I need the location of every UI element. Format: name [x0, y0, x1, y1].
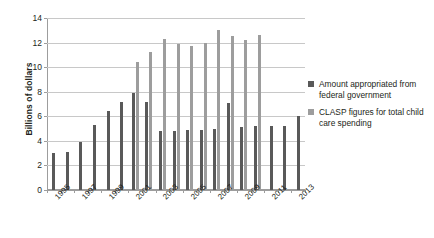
bar-federal-appropriation	[120, 102, 123, 190]
bar-federal-appropriation	[145, 102, 148, 190]
x-axis-tick-mark	[237, 190, 238, 193]
bar-clasp-total	[258, 35, 261, 190]
bar-slot	[74, 18, 88, 190]
bar-federal-appropriation	[132, 93, 135, 190]
bar-slot	[196, 18, 210, 190]
x-axis-tick-mark	[101, 190, 102, 193]
x-axis-tick-mark	[210, 190, 211, 193]
bar-federal-appropriation	[159, 131, 162, 190]
chart-container: Billions of dollars 02468101214 19951997…	[0, 0, 434, 238]
bar-slot	[251, 18, 265, 190]
bar-federal-appropriation	[254, 126, 257, 190]
bar-clasp-total	[190, 46, 193, 190]
bar-slot	[142, 18, 156, 190]
bar-slot	[224, 18, 238, 190]
bar-clasp-total	[244, 40, 247, 190]
bar-slot	[115, 18, 129, 190]
bar-federal-appropriation	[240, 127, 243, 190]
x-axis-tick-mark	[128, 190, 129, 193]
bar-federal-appropriation	[79, 142, 82, 190]
bar-slot	[88, 18, 102, 190]
y-axis-tick-label: 12	[33, 38, 42, 48]
x-axis-tick-mark	[74, 190, 75, 193]
y-axis-tick-label: 4	[37, 136, 42, 146]
x-axis-tick-mark	[156, 190, 157, 193]
x-axis-tick-mark	[264, 190, 265, 193]
y-axis-tick-label: 14	[33, 13, 42, 23]
bar-group	[47, 18, 305, 190]
bar-federal-appropriation	[93, 125, 96, 190]
chart-legend: Amount appropriated from federal governm…	[308, 79, 434, 135]
bar-clasp-total	[136, 62, 139, 190]
legend-item: Amount appropriated from federal governm…	[308, 79, 434, 100]
y-axis-title: Billions of dollars	[24, 44, 34, 154]
bar-clasp-total	[177, 44, 180, 190]
bar-clasp-total	[149, 52, 152, 190]
bar-slot	[128, 18, 142, 190]
bar-slot	[278, 18, 292, 190]
x-axis-tick-mark	[291, 190, 292, 193]
bar-slot	[291, 18, 305, 190]
bar-federal-appropriation	[186, 130, 189, 190]
bar-clasp-total	[217, 30, 220, 190]
x-axis-tick-mark	[47, 190, 48, 193]
bar-federal-appropriation	[52, 153, 55, 190]
bar-federal-appropriation	[227, 103, 230, 190]
bar-slot	[47, 18, 61, 190]
bar-slot	[61, 18, 75, 190]
x-axis-ticks: 1995199719992001200320052007200920112013	[47, 190, 305, 236]
legend-swatch-dark-icon	[308, 81, 314, 87]
bar-clasp-total	[163, 39, 166, 190]
plot-area: 02468101214	[47, 18, 305, 190]
bar-slot	[183, 18, 197, 190]
bar-federal-appropriation	[270, 126, 273, 190]
legend-item-label: Amount appropriated from federal governm…	[319, 79, 434, 100]
bar-slot	[169, 18, 183, 190]
y-axis-tick-label: 8	[37, 87, 42, 97]
bar-slot	[156, 18, 170, 190]
bar-federal-appropriation	[107, 111, 110, 190]
bar-slot	[264, 18, 278, 190]
bar-federal-appropriation	[213, 129, 216, 190]
bar-slot	[101, 18, 115, 190]
y-axis-tick-label: 6	[37, 111, 42, 121]
bar-clasp-total	[231, 36, 234, 190]
legend-item-label: CLASP figures for total child care spend…	[319, 107, 434, 128]
y-axis-tick-label: 0	[37, 185, 42, 195]
bar-federal-appropriation	[297, 116, 300, 190]
y-axis-tick-label: 10	[33, 62, 42, 72]
bar-slot	[210, 18, 224, 190]
legend-item: CLASP figures for total child care spend…	[308, 107, 434, 128]
bar-federal-appropriation	[283, 126, 286, 190]
y-axis-tick-label: 2	[37, 160, 42, 170]
legend-swatch-light-icon	[308, 109, 314, 115]
bar-clasp-total	[204, 43, 207, 190]
x-axis-tick-mark	[183, 190, 184, 193]
bar-slot	[237, 18, 251, 190]
